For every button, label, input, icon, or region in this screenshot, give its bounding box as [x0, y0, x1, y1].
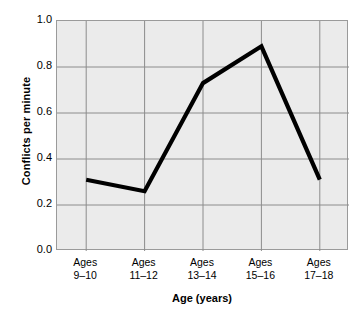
- y-tick-label: 0.0: [26, 244, 52, 255]
- y-tick-label: 0.2: [26, 198, 52, 209]
- y-tick-label: 0.8: [26, 60, 52, 71]
- y-tick-label: 0.4: [26, 152, 52, 163]
- plot-canvas: [57, 21, 349, 251]
- x-tick-label-line1: Ages: [284, 256, 354, 269]
- y-tick-label: 1.0: [26, 14, 52, 25]
- y-axis-tick-labels: 1.00.80.60.40.20.0: [22, 0, 52, 317]
- x-tick-label: Ages17–18: [284, 256, 354, 282]
- y-tick-label: 0.6: [26, 106, 52, 117]
- x-axis-title: Age (years): [56, 292, 348, 304]
- line-chart-figure: Conflicts per minute 1.00.80.60.40.20.0 …: [0, 0, 363, 317]
- x-axis-tick-labels: Ages9–10Ages11–12Ages13–14Ages15–16Ages1…: [56, 256, 348, 290]
- plot-area: [56, 20, 348, 250]
- x-tick-label-line2: 17–18: [284, 269, 354, 282]
- vertical-gridlines: [86, 21, 320, 251]
